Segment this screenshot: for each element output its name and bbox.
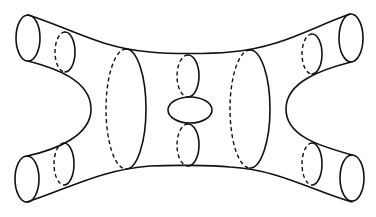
right-bottom-section xyxy=(302,143,322,185)
right-top-section xyxy=(302,34,322,74)
left-bottom-section xyxy=(54,143,74,185)
left-bottom-end xyxy=(15,156,39,202)
center-bottom-section xyxy=(177,124,199,166)
right-large-section xyxy=(230,50,270,168)
surface-outline xyxy=(27,14,352,202)
left-top-end xyxy=(16,15,40,61)
left-large-section xyxy=(106,49,146,169)
left-top-section xyxy=(55,32,75,72)
surface-diagram xyxy=(0,0,376,217)
center-top-section xyxy=(177,55,199,97)
right-bottom-end xyxy=(340,155,364,201)
right-top-end xyxy=(339,14,363,62)
center-hole xyxy=(168,97,212,123)
